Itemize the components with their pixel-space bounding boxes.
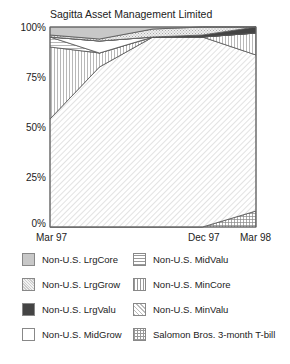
legend-swatch bbox=[133, 303, 146, 316]
legend-item-midgrow: Non-U.S. MidGrow bbox=[22, 328, 122, 341]
legend-item-tbill: Salomon Bros. 3-month T-bill bbox=[133, 328, 275, 341]
legend-item-minvalu: Non-U.S. MinValu bbox=[133, 303, 228, 316]
legend-label: Non-U.S. LrgCore bbox=[42, 254, 118, 265]
legend-label: Non-U.S. MidValu bbox=[153, 254, 228, 265]
legend-swatch bbox=[22, 303, 35, 316]
legend-item-mincore: Non-U.S. MinCore bbox=[133, 278, 231, 291]
legend-swatch bbox=[22, 253, 35, 266]
legend-label: Salomon Bros. 3-month T-bill bbox=[153, 329, 275, 340]
legend-label: Non-U.S. MinCore bbox=[153, 279, 231, 290]
legend-item-midvalu: Non-U.S. MidValu bbox=[133, 253, 228, 266]
legend-item-lrgvalu: Non-U.S. LrgValu bbox=[22, 303, 116, 316]
legend-swatch bbox=[133, 253, 146, 266]
legend-label: Non-U.S. LrgValu bbox=[42, 304, 116, 315]
legend-swatch bbox=[22, 278, 35, 291]
legend-label: Non-U.S. MidGrow bbox=[42, 329, 122, 340]
legend-label: Non-U.S. LrgGrow bbox=[42, 279, 120, 290]
legend-item-lrggrow: Non-U.S. LrgGrow bbox=[22, 278, 120, 291]
legend-swatch bbox=[22, 328, 35, 341]
legend-label: Non-U.S. MinValu bbox=[153, 304, 228, 315]
legend-swatch bbox=[133, 278, 146, 291]
legend-item-lrgcore: Non-U.S. LrgCore bbox=[22, 253, 118, 266]
legend-swatch bbox=[133, 328, 146, 341]
stacked-area-plot bbox=[0, 0, 290, 240]
